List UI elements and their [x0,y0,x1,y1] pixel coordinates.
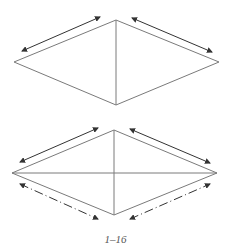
diagram-canvas [0,0,231,251]
double-arrow-icon [130,184,210,219]
double-arrow-icon [20,184,98,219]
double-arrow-icon [130,129,210,163]
figure-caption: 1–16 [0,233,231,245]
double-arrow-icon [132,18,212,52]
double-arrow-icon [22,17,100,51]
double-arrow-icon [20,128,98,162]
